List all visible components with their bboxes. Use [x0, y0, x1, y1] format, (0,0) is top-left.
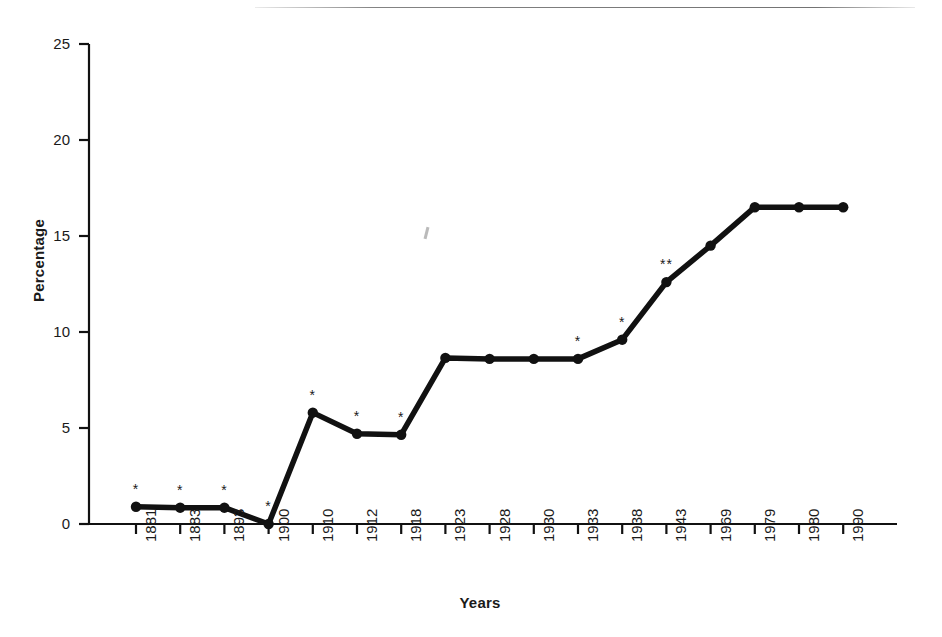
x-axis-tick-label: 1928 [496, 509, 513, 542]
data-point-markers [131, 202, 849, 529]
data-point-marker [529, 354, 539, 364]
data-point-marker [175, 502, 185, 512]
x-axis-tick-label: 1933 [584, 509, 601, 542]
significance-asterisk: * [342, 409, 372, 423]
data-point-marker [705, 240, 715, 250]
chart-axes [89, 44, 897, 524]
x-axis-tick-label: 1910 [319, 509, 336, 542]
significance-asterisk: * [254, 499, 284, 513]
data-point-marker [440, 353, 450, 363]
x-axis-tick-label: 1900 [275, 509, 292, 542]
significance-asterisk: * [121, 482, 151, 496]
data-point-marker [131, 502, 141, 512]
significance-asterisk: * [209, 483, 239, 497]
data-point-marker [750, 202, 760, 212]
data-point-marker [352, 429, 362, 439]
x-axis-tick-label: 1923 [451, 509, 468, 542]
significance-asterisk: * [165, 483, 195, 497]
data-point-marker [617, 334, 627, 344]
y-axis-tick-label: 20 [36, 131, 70, 148]
data-series-line [136, 207, 843, 524]
significance-asterisk: * [298, 388, 328, 402]
x-axis-tick-label: 1943 [672, 509, 689, 542]
y-axis-tick-label: 15 [36, 227, 70, 244]
significance-asterisk: * [386, 410, 416, 424]
data-point-marker [219, 502, 229, 512]
chart-figure: Percentage Years 0510152025 188118831893… [0, 0, 942, 637]
data-point-marker [484, 354, 494, 364]
y-axis-ticks [79, 44, 89, 524]
x-axis-tick-label: 1883 [186, 509, 203, 542]
x-axis-tick-label: 1893 [230, 509, 247, 542]
significance-asterisk: * [563, 334, 593, 348]
significance-asterisk: * [607, 315, 637, 329]
x-axis-tick-label: 1980 [805, 509, 822, 542]
x-axis-tick-label: 1881 [142, 509, 159, 542]
y-axis-tick-label: 5 [36, 419, 70, 436]
y-axis-tick-label: 25 [36, 35, 70, 52]
data-point-marker [573, 354, 583, 364]
x-axis-tick-label: 1979 [761, 509, 778, 542]
data-point-marker [661, 277, 671, 287]
x-axis-tick-label: 1938 [628, 509, 645, 542]
data-point-marker [308, 407, 318, 417]
data-point-marker [838, 202, 848, 212]
x-axis-tick-label: 1930 [540, 509, 557, 542]
y-axis-tick-label: 10 [36, 323, 70, 340]
data-point-marker [794, 202, 804, 212]
x-axis-tick-label: 1990 [849, 509, 866, 542]
data-point-marker [396, 430, 406, 440]
x-axis-title: Years [400, 594, 560, 611]
y-axis-tick-label: 0 [36, 515, 70, 532]
x-axis-tick-label: 1969 [717, 509, 734, 542]
data-point-marker [263, 519, 273, 529]
y-axis-title: Percentage [30, 201, 47, 321]
x-axis-tick-label: 1918 [407, 509, 424, 542]
significance-asterisk: ** [651, 257, 681, 271]
x-axis-tick-label: 1912 [363, 509, 380, 542]
